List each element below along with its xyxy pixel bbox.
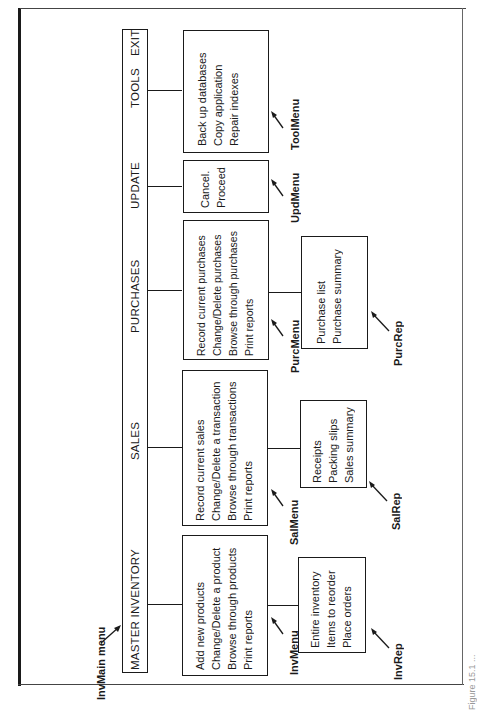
page-frame-top bbox=[20, 8, 466, 9]
sales-report-pointer-arrow-icon bbox=[368, 480, 390, 504]
tools-submenu-list: Back up databases Copy application Repai… bbox=[194, 38, 242, 146]
tools-submenu-item[interactable]: Repair indexes bbox=[226, 38, 242, 146]
inventory-report-name-label: InvRep bbox=[390, 640, 406, 680]
connector-purchases-report bbox=[269, 292, 301, 293]
sales-submenu-item[interactable]: Print reports bbox=[240, 375, 256, 521]
inventory-report-list: Entire inventory Items to reorder Place … bbox=[307, 562, 355, 648]
sales-report-name-label: SalRep bbox=[388, 490, 404, 530]
page-frame-bottom bbox=[18, 684, 464, 685]
sales-report-item[interactable]: Sales summary bbox=[341, 405, 357, 483]
connector-inventory-report bbox=[268, 605, 298, 606]
menu-item-exit[interactable]: EXIT bbox=[127, 30, 143, 56]
inventory-submenu-pointer-arrow-icon bbox=[270, 616, 286, 636]
sales-report-list: Receipts Packing slips Sales summary bbox=[309, 405, 357, 483]
tools-submenu-item[interactable]: Back up databases bbox=[194, 38, 210, 146]
connector-purchases bbox=[148, 290, 182, 291]
tools-submenu-name-label: ToolMenu bbox=[287, 100, 303, 150]
purchases-report-list: Purchase list Purchase summary bbox=[313, 241, 345, 344]
sales-submenu-pointer-arrow-icon bbox=[270, 488, 286, 508]
connector-sales-report bbox=[268, 448, 300, 449]
sales-report-item[interactable]: Receipts bbox=[309, 405, 325, 483]
inventory-submenu-item[interactable]: Add new products bbox=[192, 540, 208, 670]
purchases-submenu-pointer-arrow-icon bbox=[270, 318, 286, 338]
update-submenu-pointer-arrow-icon bbox=[270, 178, 286, 198]
purchases-submenu-item[interactable]: Print reports bbox=[241, 224, 257, 356]
sales-submenu-item[interactable]: Record current sales bbox=[192, 375, 208, 521]
inventory-report-pointer-arrow-icon bbox=[370, 627, 392, 651]
page-frame-right bbox=[462, 8, 463, 685]
inventory-report-item[interactable]: Place orders bbox=[339, 562, 355, 648]
menu-item-master-inventory[interactable]: MASTER INVENTORY bbox=[127, 540, 143, 670]
purchases-report-item[interactable]: Purchase summary bbox=[329, 241, 345, 344]
inventory-submenu-item[interactable]: Change/Delete a product bbox=[208, 540, 224, 670]
connector-tools bbox=[148, 90, 182, 91]
menu-item-update[interactable]: UPDATE bbox=[127, 153, 143, 209]
update-submenu-name-label: UpdMenu bbox=[287, 168, 303, 223]
purchases-report-pointer-arrow-icon bbox=[370, 310, 392, 334]
inventory-report-item[interactable]: Items to reorder bbox=[323, 562, 339, 648]
sales-submenu-item[interactable]: Change/Delete a transaction bbox=[208, 375, 224, 521]
sales-submenu-name-label: SalMenu bbox=[286, 495, 302, 545]
page-frame-left bbox=[18, 8, 21, 686]
purchases-submenu-item[interactable]: Browse through purchases bbox=[225, 224, 241, 356]
menu-item-purchases[interactable]: PURCHASES bbox=[127, 253, 143, 333]
inventory-submenu-item[interactable]: Browse through products bbox=[224, 540, 240, 670]
menu-item-sales[interactable]: SALES bbox=[127, 420, 143, 460]
purchases-submenu-item[interactable]: Change/Delete purchases bbox=[209, 224, 225, 356]
purchases-report-name-label: PurcRep bbox=[390, 318, 406, 366]
purchases-submenu-item[interactable]: Record current purchases bbox=[193, 224, 209, 356]
sales-report-item[interactable]: Packing slips bbox=[325, 405, 341, 483]
update-submenu-item[interactable]: Proceed bbox=[213, 165, 229, 208]
menu-item-tools[interactable]: TOOLS bbox=[127, 62, 143, 108]
purchases-submenu-list: Record current purchases Change/Delete p… bbox=[193, 224, 257, 356]
inventory-report-item[interactable]: Entire inventory bbox=[307, 562, 323, 648]
connector-update bbox=[148, 186, 182, 187]
figure-caption: Figure 15.1 ... bbox=[464, 600, 480, 710]
update-submenu-item[interactable]: Cancel. bbox=[197, 165, 213, 208]
connector-sales bbox=[148, 447, 182, 448]
inventory-submenu-list: Add new products Change/Delete a product… bbox=[192, 540, 256, 670]
inventory-submenu-item[interactable]: Print reports bbox=[240, 540, 256, 670]
tools-submenu-pointer-arrow-icon bbox=[270, 110, 286, 130]
update-submenu-list: Cancel. Proceed bbox=[197, 165, 229, 208]
sales-submenu-item[interactable]: Browse through transactions bbox=[224, 375, 240, 521]
sales-submenu-list: Record current sales Change/Delete a tra… bbox=[192, 375, 256, 521]
connector-inventory bbox=[148, 604, 182, 605]
purchases-report-item[interactable]: Purchase list bbox=[313, 241, 329, 344]
main-menu-pointer-arrow-icon bbox=[99, 623, 123, 645]
tools-submenu-item[interactable]: Copy application bbox=[210, 38, 226, 146]
